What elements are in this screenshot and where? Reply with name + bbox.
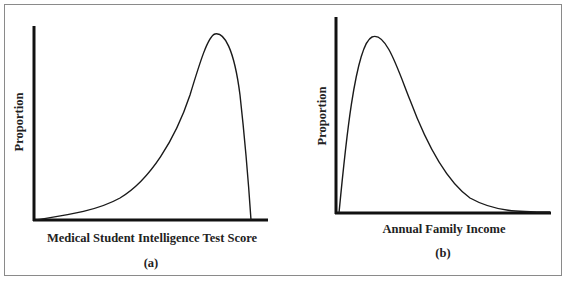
- chart-b-y-axis-label: Proportion: [315, 87, 330, 146]
- chart-a: [33, 26, 268, 221]
- chart-a-x-axis-label: Medical Student Intelligence Test Score: [47, 231, 257, 246]
- chart-b: [335, 17, 551, 214]
- chart-a-y-axis-label: Proportion: [12, 93, 27, 152]
- chart-a-curve: [36, 34, 251, 220]
- chart-a-caption: (a): [144, 256, 159, 271]
- chart-b-curve: [339, 36, 550, 213]
- chart-b-caption: (b): [435, 246, 450, 261]
- chart-b-x-axis-label: Annual Family Income: [383, 222, 506, 237]
